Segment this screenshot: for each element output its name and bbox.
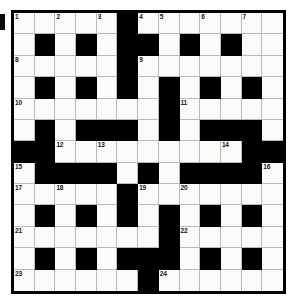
grid-letter-cell[interactable]: [159, 34, 180, 55]
grid-letter-cell[interactable]: [35, 56, 56, 77]
grid-letter-cell[interactable]: 11: [180, 99, 201, 120]
grid-letter-cell[interactable]: [242, 99, 263, 120]
grid-letter-cell[interactable]: [76, 184, 97, 205]
grid-letter-cell[interactable]: [97, 56, 118, 77]
grid-letter-cell[interactable]: [55, 34, 76, 55]
grid-letter-cell[interactable]: [35, 227, 56, 248]
grid-letter-cell[interactable]: [97, 184, 118, 205]
grid-letter-cell[interactable]: [262, 77, 283, 98]
grid-letter-cell[interactable]: [221, 184, 242, 205]
grid-letter-cell[interactable]: 18: [55, 184, 76, 205]
grid-letter-cell[interactable]: [76, 270, 97, 291]
grid-letter-cell[interactable]: [262, 120, 283, 141]
grid-letter-cell[interactable]: [97, 205, 118, 226]
grid-letter-cell[interactable]: [262, 227, 283, 248]
grid-letter-cell[interactable]: [35, 99, 56, 120]
grid-letter-cell[interactable]: [180, 56, 201, 77]
grid-letter-cell[interactable]: 22: [180, 227, 201, 248]
grid-letter-cell[interactable]: [159, 184, 180, 205]
grid-letter-cell[interactable]: [55, 56, 76, 77]
grid-letter-cell[interactable]: 6: [200, 13, 221, 34]
grid-letter-cell[interactable]: [97, 248, 118, 269]
grid-letter-cell[interactable]: [97, 34, 118, 55]
grid-letter-cell[interactable]: [138, 99, 159, 120]
grid-letter-cell[interactable]: [55, 99, 76, 120]
grid-letter-cell[interactable]: [76, 56, 97, 77]
grid-letter-cell[interactable]: [262, 248, 283, 269]
grid-letter-cell[interactable]: [97, 77, 118, 98]
grid-letter-cell[interactable]: 19: [138, 184, 159, 205]
grid-letter-cell[interactable]: [55, 77, 76, 98]
grid-letter-cell[interactable]: [138, 227, 159, 248]
grid-letter-cell[interactable]: 23: [14, 270, 35, 291]
grid-letter-cell[interactable]: 5: [159, 13, 180, 34]
grid-letter-cell[interactable]: [55, 227, 76, 248]
grid-letter-cell[interactable]: [262, 205, 283, 226]
grid-letter-cell[interactable]: 15: [14, 163, 35, 184]
grid-letter-cell[interactable]: 7: [242, 13, 263, 34]
grid-letter-cell[interactable]: 2: [55, 13, 76, 34]
grid-letter-cell[interactable]: [221, 77, 242, 98]
grid-letter-cell[interactable]: [138, 205, 159, 226]
grid-letter-cell[interactable]: [221, 13, 242, 34]
grid-letter-cell[interactable]: [180, 77, 201, 98]
grid-letter-cell[interactable]: [221, 99, 242, 120]
grid-letter-cell[interactable]: [242, 34, 263, 55]
grid-letter-cell[interactable]: [55, 270, 76, 291]
grid-letter-cell[interactable]: [221, 227, 242, 248]
grid-letter-cell[interactable]: [138, 141, 159, 162]
grid-letter-cell[interactable]: [159, 163, 180, 184]
grid-letter-cell[interactable]: [221, 248, 242, 269]
grid-letter-cell[interactable]: 14: [221, 141, 242, 162]
grid-letter-cell[interactable]: 17: [14, 184, 35, 205]
grid-letter-cell[interactable]: [180, 120, 201, 141]
grid-letter-cell[interactable]: [117, 270, 138, 291]
grid-letter-cell[interactable]: [221, 56, 242, 77]
grid-letter-cell[interactable]: [14, 248, 35, 269]
grid-letter-cell[interactable]: [14, 34, 35, 55]
grid-letter-cell[interactable]: 3: [97, 13, 118, 34]
grid-letter-cell[interactable]: [14, 77, 35, 98]
grid-letter-cell[interactable]: [242, 184, 263, 205]
grid-letter-cell[interactable]: [117, 163, 138, 184]
grid-letter-cell[interactable]: [242, 56, 263, 77]
grid-letter-cell[interactable]: [117, 99, 138, 120]
grid-letter-cell[interactable]: [97, 99, 118, 120]
grid-letter-cell[interactable]: [180, 141, 201, 162]
grid-letter-cell[interactable]: [262, 34, 283, 55]
grid-letter-cell[interactable]: [180, 205, 201, 226]
grid-letter-cell[interactable]: [55, 120, 76, 141]
grid-letter-cell[interactable]: [200, 184, 221, 205]
grid-letter-cell[interactable]: [159, 141, 180, 162]
grid-letter-cell[interactable]: [14, 205, 35, 226]
grid-letter-cell[interactable]: [262, 56, 283, 77]
grid-letter-cell[interactable]: [117, 141, 138, 162]
grid-letter-cell[interactable]: [200, 56, 221, 77]
grid-letter-cell[interactable]: 8: [14, 56, 35, 77]
grid-letter-cell[interactable]: [262, 184, 283, 205]
grid-letter-cell[interactable]: [35, 13, 56, 34]
grid-letter-cell[interactable]: [242, 227, 263, 248]
grid-letter-cell[interactable]: [200, 34, 221, 55]
grid-letter-cell[interactable]: 10: [14, 99, 35, 120]
grid-letter-cell[interactable]: [138, 120, 159, 141]
grid-letter-cell[interactable]: 21: [14, 227, 35, 248]
grid-letter-cell[interactable]: 13: [97, 141, 118, 162]
grid-letter-cell[interactable]: [76, 227, 97, 248]
grid-letter-cell[interactable]: 20: [180, 184, 201, 205]
grid-letter-cell[interactable]: [262, 99, 283, 120]
grid-letter-cell[interactable]: [76, 141, 97, 162]
grid-letter-cell[interactable]: [138, 77, 159, 98]
grid-letter-cell[interactable]: [159, 56, 180, 77]
grid-letter-cell[interactable]: 24: [159, 270, 180, 291]
grid-letter-cell[interactable]: [97, 227, 118, 248]
grid-letter-cell[interactable]: [200, 141, 221, 162]
grid-letter-cell[interactable]: [221, 270, 242, 291]
grid-letter-cell[interactable]: [180, 13, 201, 34]
grid-letter-cell[interactable]: 16: [262, 163, 283, 184]
grid-letter-cell[interactable]: [200, 227, 221, 248]
grid-letter-cell[interactable]: [180, 270, 201, 291]
grid-letter-cell[interactable]: [180, 248, 201, 269]
grid-letter-cell[interactable]: [242, 270, 263, 291]
grid-letter-cell[interactable]: 9: [138, 56, 159, 77]
